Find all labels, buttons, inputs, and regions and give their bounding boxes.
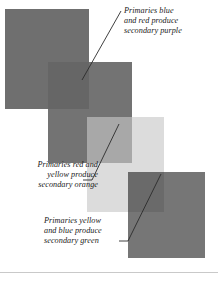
swatch-purple-secondary bbox=[48, 62, 89, 109]
caption-secondary-green: Primaries yellow and blue produce second… bbox=[44, 216, 130, 247]
swatch-orange-secondary bbox=[87, 117, 132, 163]
caption-secondary-orange: Primaries red and yellow produce seconda… bbox=[2, 160, 98, 191]
bottom-rule bbox=[0, 272, 218, 273]
caption-secondary-purple: Primaries blue and red produce secondary… bbox=[124, 6, 214, 37]
swatch-green-secondary bbox=[128, 172, 164, 212]
color-primaries-figure: Primaries blue and red produce secondary… bbox=[0, 0, 218, 283]
